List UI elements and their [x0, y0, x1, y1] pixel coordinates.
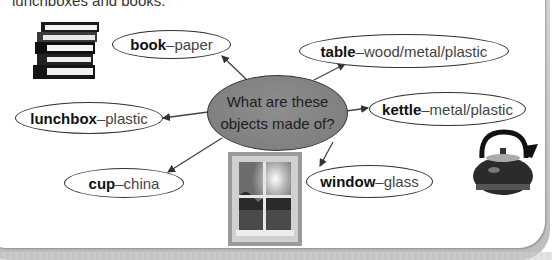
node-material: glass: [384, 173, 419, 190]
node-separator: –: [115, 175, 123, 192]
node-separator: –: [166, 36, 174, 53]
node-window: window – glass: [306, 165, 433, 198]
central-question-line1: What are these: [227, 91, 329, 113]
node-cup: cup – china: [64, 168, 184, 198]
node-material: plastic: [105, 110, 148, 127]
node-object: cup: [89, 175, 116, 192]
node-lunchbox: lunchbox – plastic: [15, 102, 163, 134]
node-object: lunchbox: [30, 110, 97, 127]
node-book: book – paper: [112, 30, 231, 59]
node-separator: –: [356, 43, 364, 60]
node-separator: –: [421, 101, 429, 118]
central-question-line2: objects made of?: [220, 113, 334, 135]
arrow-to-book: [222, 56, 247, 80]
node-kettle: kettle – metal/plastic: [369, 92, 526, 126]
central-question-node: What are these objects made of?: [207, 75, 348, 151]
kettle-image: [466, 128, 542, 196]
node-separator: –: [375, 173, 383, 190]
node-object: window: [320, 173, 375, 190]
books-image: [33, 20, 101, 82]
node-table: table – wood/metal/plastic: [299, 34, 509, 68]
window-image: [228, 152, 302, 246]
node-material: paper: [174, 36, 212, 53]
arrow-to-kettle: [346, 108, 368, 111]
node-material: wood/metal/plastic: [364, 43, 487, 60]
arrow-to-window: [320, 142, 333, 166]
arrow-to-lunchbox: [163, 112, 208, 118]
arrow-to-cup: [168, 138, 222, 172]
node-material: metal/plastic: [430, 101, 513, 118]
node-object: book: [130, 36, 166, 53]
arrow-to-table: [314, 64, 345, 80]
node-material: china: [124, 175, 160, 192]
node-object: kettle: [382, 101, 421, 118]
node-separator: –: [97, 110, 105, 127]
node-object: table: [321, 43, 356, 60]
